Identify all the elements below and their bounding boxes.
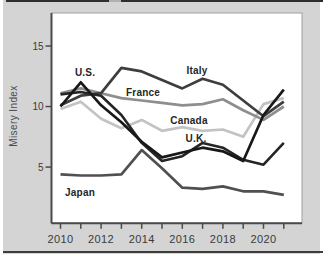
x-tick-label: 2014 bbox=[129, 233, 155, 245]
x-tick-label: 2020 bbox=[250, 233, 276, 245]
y-tick-label: 10 bbox=[32, 101, 44, 112]
label-france: France bbox=[126, 87, 160, 98]
y-tick-label: 5 bbox=[38, 162, 44, 173]
y-tick-label: 15 bbox=[32, 41, 44, 52]
misery-index-chart: 51015201020122014201620182020CanadaFranc… bbox=[0, 0, 325, 261]
label-japan: Japan bbox=[65, 187, 95, 198]
x-tick-label: 2016 bbox=[169, 233, 195, 245]
x-tick-label: 2018 bbox=[210, 233, 236, 245]
x-tick-label: 2010 bbox=[47, 233, 73, 245]
label-canada: Canada bbox=[170, 115, 208, 126]
label-italy: Italy bbox=[186, 65, 207, 76]
x-tick-label: 2012 bbox=[88, 233, 114, 245]
label-uk: U.K. bbox=[186, 133, 207, 144]
misery-index-figure: Misery Index 510152010201220142016201820… bbox=[0, 0, 325, 261]
label-us: U.S. bbox=[75, 67, 95, 78]
